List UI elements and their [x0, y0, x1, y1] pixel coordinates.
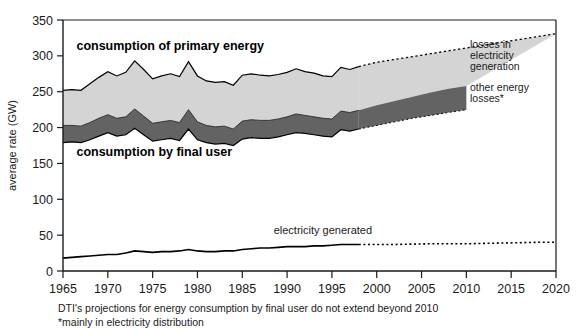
y-tick-label: 150 — [32, 157, 53, 171]
x-tick-label: 2000 — [363, 282, 391, 296]
chart-annotation-3: electricity generated — [274, 224, 372, 236]
x-tick-label: 2005 — [408, 282, 436, 296]
y-tick-label: 50 — [39, 229, 53, 243]
x-tick-label: 1965 — [49, 282, 77, 296]
y-tick-label: 200 — [32, 121, 53, 135]
caption-line-2: *mainly in electricity distribution — [58, 316, 204, 328]
legend-label-line-5: losses* — [470, 92, 504, 104]
y-tick-label: 350 — [32, 14, 53, 28]
x-tick-label: 2015 — [497, 282, 525, 296]
x-tick-label: 1975 — [139, 282, 167, 296]
x-tick-label: 1995 — [318, 282, 346, 296]
energy-consumption-chart: 0501001502002503003501965197019751980198… — [0, 0, 585, 336]
x-tick-label: 2020 — [542, 282, 570, 296]
x-tick-label: 1980 — [184, 282, 212, 296]
y-tick-label: 100 — [32, 193, 53, 207]
chart-annotation-1: consumption of primary energy — [76, 39, 264, 53]
y-tick-label: 250 — [32, 85, 53, 99]
y-tick-label: 300 — [32, 49, 53, 63]
y-tick-label: 0 — [46, 265, 53, 279]
chart-annotation-2: consumption by final user — [76, 145, 232, 159]
x-tick-label: 2010 — [452, 282, 480, 296]
x-tick-label: 1990 — [273, 282, 301, 296]
legend-label-line-3: generation — [470, 60, 520, 72]
y-axis-title: average rate (GW) — [6, 100, 18, 191]
x-tick-label: 1970 — [94, 282, 122, 296]
x-tick-label: 1985 — [228, 282, 256, 296]
chart-svg: 0501001502002503003501965197019751980198… — [0, 0, 585, 336]
caption-line-1: DTI's projections for energy consumption… — [58, 302, 438, 314]
